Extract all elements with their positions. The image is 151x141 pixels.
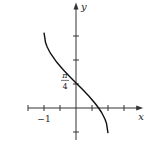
x-tick-label: −1 [37,114,50,124]
chart: xy−1π4 [0,0,151,141]
x-axis-arrow [136,106,143,111]
y-axis-arrow [74,2,79,9]
y-tick-label-denominator: 4 [62,82,67,91]
y-axis-label: y [80,1,87,12]
chart-plot: xy−1π4 [0,0,151,141]
x-axis-label: x [138,111,144,122]
